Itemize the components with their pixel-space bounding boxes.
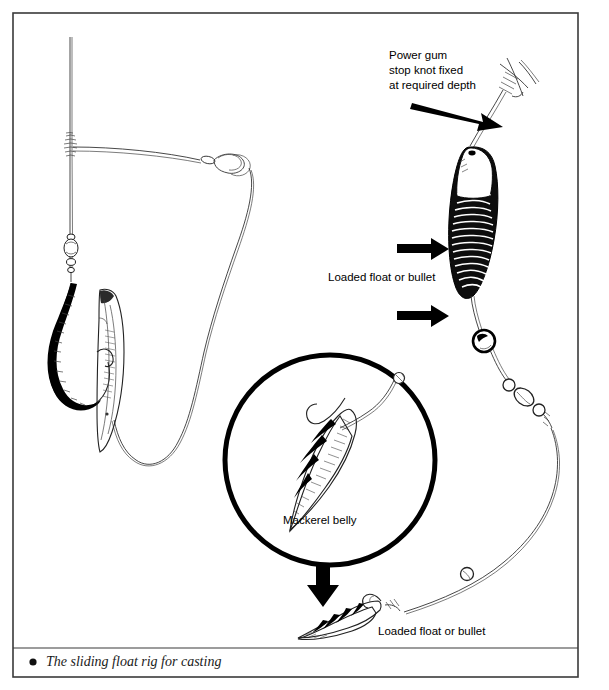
right-line-above-knot bbox=[519, 62, 536, 84]
right-barrel-swivel bbox=[503, 379, 552, 428]
right-line-float-to-bead-2 bbox=[474, 296, 482, 330]
right-snood-swivel bbox=[461, 568, 474, 581]
left-hook-shading bbox=[48, 283, 102, 411]
right-bait-knot bbox=[385, 599, 400, 611]
arrow-inset-to-bait bbox=[307, 565, 339, 607]
right-line-bead-to-swivel bbox=[490, 350, 506, 380]
inset-circle bbox=[225, 355, 435, 565]
left-stop-knot bbox=[64, 133, 77, 157]
power-gum-label-line1: Power gum bbox=[389, 49, 447, 61]
left-rig-assembly bbox=[48, 37, 254, 466]
right-round-bead bbox=[473, 330, 495, 352]
fishing-rig-diagram: Mackerel belly Power gum stop knot fixed… bbox=[0, 0, 609, 690]
right-line-above-knot-2 bbox=[521, 60, 539, 82]
loaded-float-bullet bbox=[449, 147, 498, 299]
left-leader-line-shadow bbox=[73, 151, 201, 163]
right-stop-knot bbox=[499, 58, 528, 97]
power-gum-label-line2: stop knot fixed bbox=[389, 64, 463, 76]
inset-swivel bbox=[394, 373, 406, 384]
figure-caption: The sliding float rig for casting bbox=[46, 654, 221, 669]
caption-bullet-icon bbox=[29, 658, 36, 665]
detail-inset: Mackerel belly bbox=[225, 355, 435, 565]
left-leader-line bbox=[73, 147, 200, 160]
loaded-float-label-upper: Loaded float or bullet bbox=[328, 271, 436, 283]
bottom-mackerel-belly-bait bbox=[298, 594, 381, 639]
mackerel-belly-label: Mackerel belly bbox=[283, 514, 357, 526]
bait-stripes bbox=[312, 603, 364, 633]
arrow-to-bead bbox=[397, 305, 449, 327]
arrow-to-float bbox=[397, 238, 449, 260]
left-snap-link-swivel bbox=[200, 154, 250, 176]
power-gum-label-line3: at required depth bbox=[389, 79, 476, 91]
loaded-float-label-lower: Loaded float or bullet bbox=[378, 625, 486, 637]
left-bead-and-swivel bbox=[64, 234, 78, 282]
figure-page: Mackerel belly Power gum stop knot fixed… bbox=[0, 0, 609, 690]
left-hook-point bbox=[97, 349, 113, 366]
right-line-bead-to-swivel-2 bbox=[493, 349, 509, 379]
arrow-to-stop-knot bbox=[410, 103, 503, 131]
left-mackerel-belly-bait bbox=[97, 289, 124, 452]
